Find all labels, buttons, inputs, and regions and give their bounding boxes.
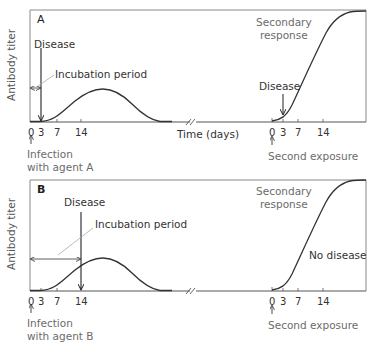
panel-a-infection-line1: Infection <box>27 148 73 160</box>
panel-a-letter: A <box>37 13 45 26</box>
panel-b-incubation-label: Incubation period <box>95 218 187 230</box>
panel-b-sec-tick-14: 14 <box>317 296 330 308</box>
panel-a-frame <box>30 10 366 122</box>
panel-b-secondary-line2: response <box>260 198 308 210</box>
panel-a-y-axis-label: Antibody titer <box>5 29 17 101</box>
panel-a-tick-0: 0 <box>28 127 34 139</box>
panel-a-sec-tick-14: 14 <box>317 127 330 139</box>
panel-a-sec-tick-0: 0 <box>269 127 275 139</box>
panel-b-y-axis-label: Antibody titer <box>5 198 17 270</box>
panel-a-sec-tick-3: 3 <box>280 127 286 139</box>
panel-a-second-exposure-label: Second exposure <box>268 150 358 162</box>
panel-b-tick-14: 14 <box>75 296 88 308</box>
panel-b-tick-0: 0 <box>28 296 34 308</box>
panel-b-infection-line2: with agent B <box>27 330 94 342</box>
panel-a-infection-line2: with agent A <box>27 161 93 173</box>
panel-b-tick-3: 3 <box>38 296 44 308</box>
panel-a-tick-3: 3 <box>38 127 44 139</box>
panel-b-disease-label: Disease <box>64 196 105 208</box>
panel-a-secondary-line2: response <box>260 29 308 41</box>
panel-b-tick-7: 7 <box>54 296 60 308</box>
panel-a-sec-tick-7: 7 <box>295 127 301 139</box>
panel-b-infection-line1: Infection <box>27 317 73 329</box>
panel-b-letter: B <box>37 183 45 196</box>
panel-a-tick-7: 7 <box>54 127 60 139</box>
panel-a-disease-label: Disease <box>34 38 75 50</box>
panel-a-incubation-label: Incubation period <box>55 68 147 80</box>
panel-b-no-disease-label: No disease <box>309 249 367 261</box>
panel-b-second-exposure-label: Second exposure <box>268 319 358 331</box>
x-axis-label: Time (days) <box>177 128 239 140</box>
panel-a-secondary-disease-label: Disease <box>259 80 300 92</box>
panel-a-primary-curve <box>30 89 172 122</box>
panel-b-sec-tick-0: 0 <box>269 296 275 308</box>
panel-a-incubation-leader <box>38 75 54 86</box>
panel-b-incubation-leader <box>58 228 93 255</box>
panel-b-sec-tick-7: 7 <box>295 296 301 308</box>
panel-b-sec-tick-3: 3 <box>280 296 286 308</box>
panel-a-secondary-line1: Secondary <box>256 16 312 28</box>
panel-b-secondary-line1: Secondary <box>256 185 312 197</box>
panel-b-primary-curve <box>30 258 172 291</box>
panel-a-tick-14: 14 <box>75 127 88 139</box>
